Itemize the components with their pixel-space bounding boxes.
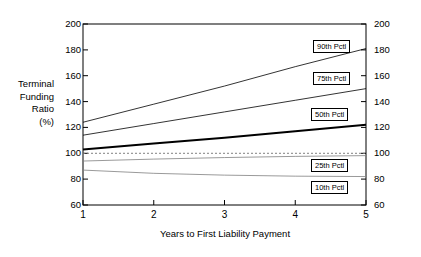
x-tick-3: 3 [215,209,235,220]
chart-figure: Terminal Funding Ratio (%) 200 180 160 1… [0,0,421,257]
x-axis-ticks: 1 2 3 4 5 [0,209,421,223]
legend-box-75th-pctl[interactable]: 75th Pctl [313,72,350,85]
legend-box-90th-pctl[interactable]: 90th Pctl [313,40,350,53]
x-tick-1: 1 [73,209,93,220]
x-axis-title: Years to First Liability Payment [83,228,367,239]
legend-box-50th-pctl[interactable]: 50th Pctl [311,108,348,121]
x-tick-2: 2 [144,209,164,220]
x-tick-4: 4 [285,209,305,220]
legend-box-10th-pctl[interactable]: 10th Pctl [311,181,348,194]
x-tick-5: 5 [356,209,376,220]
legend-box-25th-pctl[interactable]: 25th Pctl [311,159,348,172]
